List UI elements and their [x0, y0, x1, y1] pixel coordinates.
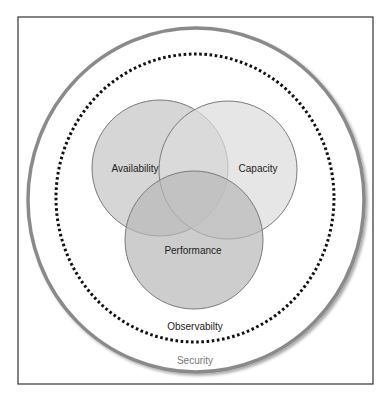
- security-label: Security: [177, 355, 213, 366]
- performance-circle: [125, 171, 263, 309]
- performance-label: Performance: [164, 245, 222, 256]
- availability-label: Availability: [111, 163, 158, 174]
- observability-label: Observabilty: [167, 321, 223, 332]
- capacity-label: Capacity: [239, 163, 278, 174]
- venn-diagram: Availability Capacity Performance Observ…: [0, 0, 388, 400]
